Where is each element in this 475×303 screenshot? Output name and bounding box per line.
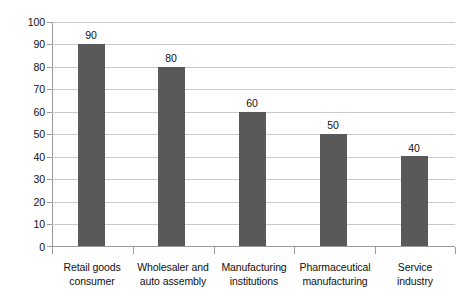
x-axis-tick-0 bbox=[52, 247, 53, 254]
gridline-90 bbox=[52, 44, 455, 45]
x-axis-category-line-2: industry bbox=[367, 274, 463, 288]
bar-chart: 100 90 80 70 60 50 40 30 20 10 0 bbox=[0, 0, 475, 303]
y-axis-label-50: 50 bbox=[1, 129, 45, 140]
y-axis-label-60: 60 bbox=[1, 107, 45, 118]
x-axis-tick-1 bbox=[133, 247, 134, 254]
bar-pharmaceutical-manufacturing[interactable] bbox=[320, 134, 347, 246]
bar-manufacturing-institutions[interactable] bbox=[239, 112, 266, 246]
y-axis-label-20: 20 bbox=[1, 197, 45, 208]
y-axis-label-80: 80 bbox=[1, 62, 45, 73]
x-axis-line bbox=[52, 246, 455, 247]
bar-wholesaler-auto-assembly[interactable] bbox=[158, 67, 185, 246]
bar-retail-goods-consumer[interactable] bbox=[78, 44, 105, 246]
bar-value-wholesaler-auto-assembly: 80 bbox=[141, 53, 201, 64]
y-axis-label-40: 40 bbox=[1, 152, 45, 163]
y-axis-label-10: 10 bbox=[1, 219, 45, 230]
y-axis-label-90: 90 bbox=[1, 39, 45, 50]
x-axis-tick-5 bbox=[455, 247, 456, 254]
x-axis-tick-2 bbox=[214, 247, 215, 254]
x-axis-tick-4 bbox=[375, 247, 376, 254]
gridline-70 bbox=[52, 89, 455, 90]
y-axis-label-30: 30 bbox=[1, 174, 45, 185]
x-axis-tick-3 bbox=[294, 247, 295, 254]
bar-value-retail-goods-consumer: 90 bbox=[61, 30, 121, 41]
gridline-80 bbox=[52, 67, 455, 68]
bar-service-industry[interactable] bbox=[401, 156, 428, 246]
x-axis-category-label-service-industry: Service industry bbox=[367, 260, 463, 288]
y-axis-label-100: 100 bbox=[1, 17, 45, 28]
y-axis-label-0: 0 bbox=[1, 242, 45, 253]
y-axis-labels: 100 90 80 70 60 50 40 30 20 10 0 bbox=[0, 0, 45, 303]
x-axis-category-line-1: Service bbox=[367, 260, 463, 274]
bar-value-service-industry: 40 bbox=[384, 143, 444, 154]
bar-value-pharmaceutical-manufacturing: 50 bbox=[303, 120, 363, 131]
y-axis-label-70: 70 bbox=[1, 84, 45, 95]
bar-value-manufacturing-institutions: 60 bbox=[222, 98, 282, 109]
plot-area bbox=[52, 22, 455, 246]
gridline-100 bbox=[52, 22, 455, 23]
